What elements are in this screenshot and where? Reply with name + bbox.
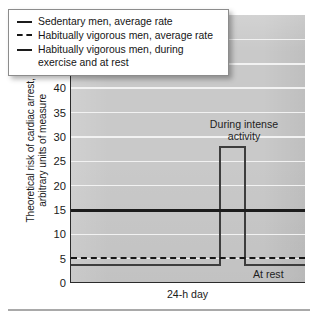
chart-legend: Sedentary men, average rate Habitually v… [8, 9, 229, 76]
solid-line-key-icon-2 [16, 43, 34, 56]
gridline-20 [71, 185, 305, 187]
legend-entry-vigorous-average: Habitually vigorous men, average rate [16, 29, 222, 42]
gridline-10 [71, 234, 305, 236]
gridline-40 [71, 87, 305, 89]
gridline-35 [71, 112, 305, 114]
step-baseline-right [244, 264, 305, 266]
step-rising-edge [219, 146, 221, 266]
solid-line-key-icon [16, 15, 34, 28]
annotation-at-rest: At rest [253, 268, 284, 280]
series-vigorous-average-line [71, 257, 305, 259]
legend-label-vigorous-average: Habitually vigorous men, average rate [38, 29, 213, 42]
y-tick-20: 20 [44, 180, 66, 192]
y-tick-35: 35 [44, 107, 66, 119]
series-sedentary-average-line [71, 209, 305, 212]
x-axis-title: 24-h day [70, 288, 305, 300]
legend-label-vigorous-exercise: Habitually vigorous men, during exercise… [38, 43, 184, 69]
bottom-divider [8, 309, 310, 311]
y-tick-25: 25 [44, 155, 66, 167]
y-tick-15: 15 [44, 204, 66, 216]
step-baseline-left [71, 264, 219, 266]
legend-entry-vigorous-exercise: Habitually vigorous men, during exercise… [16, 43, 222, 69]
legend-entry-sedentary: Sedentary men, average rate [16, 15, 222, 28]
y-tick-10: 10 [44, 228, 66, 240]
y-tick-0: 0 [44, 277, 66, 289]
y-tick-40: 40 [44, 82, 66, 94]
step-plateau-intense [219, 146, 246, 148]
annotation-during-intense-activity: During intense activity [191, 118, 297, 143]
step-falling-edge [244, 146, 246, 266]
legend-label-sedentary: Sedentary men, average rate [38, 15, 173, 28]
chart-figure: Theoretical risk of cardiac arrest, arbi… [0, 0, 318, 318]
gridline-25 [71, 161, 305, 163]
y-tick-30: 30 [44, 131, 66, 143]
y-tick-5: 5 [44, 253, 66, 265]
dashed-line-key-icon [16, 29, 34, 42]
